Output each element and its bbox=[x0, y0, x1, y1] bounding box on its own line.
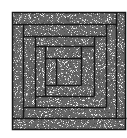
spiral-lines bbox=[0, 0, 127, 138]
spiral-pattern-figure bbox=[0, 0, 127, 138]
